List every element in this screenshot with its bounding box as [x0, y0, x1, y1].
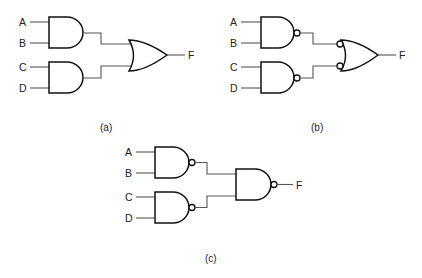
input-label-b: B [19, 37, 26, 49]
nand-gate-icon [236, 169, 271, 200]
panel-b: A B C D F (b) [230, 16, 405, 133]
wire-and2-to-or [83, 66, 131, 78]
inversion-bubble-icon [271, 182, 277, 188]
input-label-a: A [125, 146, 132, 158]
inversion-bubble-icon [294, 75, 300, 81]
input-label-b: B [125, 167, 132, 179]
or-gate-icon [129, 40, 167, 71]
wire-nand1-to-nand [195, 163, 236, 175]
wire-nand2-to-or [300, 66, 337, 78]
nand-gate-icon [261, 17, 294, 48]
caption-b: (b) [311, 122, 323, 133]
input-label-c: C [230, 61, 238, 73]
output-label-f: F [296, 179, 302, 191]
inversion-bubble-icon [294, 30, 300, 36]
input-label-b: B [230, 37, 237, 49]
caption-a: (a) [100, 122, 112, 133]
nand-gate-icon [261, 62, 294, 93]
wire-nand1-to-or [300, 33, 337, 44]
output-label-f: F [188, 49, 194, 61]
input-label-c: C [125, 191, 133, 203]
wire-and1-to-or [83, 33, 131, 44]
output-label-f: F [399, 49, 405, 61]
and-gate-icon [49, 17, 83, 48]
input-label-a: A [19, 16, 26, 28]
inversion-bubble-icon [189, 160, 195, 166]
input-label-c: C [19, 61, 27, 73]
and-gate-icon [49, 62, 83, 93]
inversion-bubble-icon [337, 41, 343, 47]
panel-a: A B C D F (a) [19, 16, 194, 133]
input-label-d: D [230, 82, 238, 94]
input-label-a: A [230, 16, 237, 28]
input-label-d: D [125, 212, 133, 224]
wire-nand2-to-nand [195, 196, 236, 208]
nand-gate-icon [155, 147, 189, 178]
nand-gate-icon [155, 192, 189, 223]
logic-diagram: A B C D F (a) A B C D [0, 0, 422, 278]
caption-c: (c) [205, 253, 217, 264]
inversion-bubble-icon [189, 205, 195, 211]
inversion-bubble-icon [337, 63, 343, 69]
input-label-d: D [19, 82, 27, 94]
or-gate-icon [341, 40, 378, 71]
panel-c: A B C D F (c) [125, 146, 302, 264]
